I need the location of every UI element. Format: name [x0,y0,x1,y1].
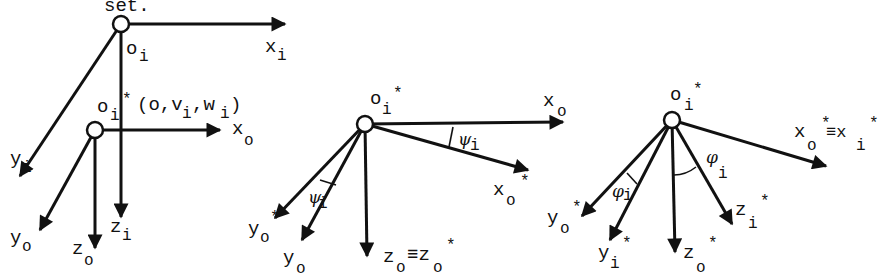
panel-1: O i x i O i * (o,v i ,w i ) x o y i y [10,16,287,270]
svg-text:O: O [126,38,137,60]
label-y-o: y o [10,227,32,256]
panel-3: O i * x o * ≡x i * φ i φ i y o * y i * [547,81,879,277]
axis-z-o [365,124,367,256]
label-origin-o-i-star: O i * [97,91,132,125]
svg-text:i: i [220,105,230,123]
caption-fragment: set. [104,0,150,17]
svg-text:o: o [244,132,254,150]
svg-text:o: o [296,260,306,278]
svg-text:x: x [265,36,276,58]
panel-2: O i * x o ψ i x o * ψ i y o * y o [248,85,567,278]
label-velocity-tuple: (o,v i ,w i ) [137,94,241,123]
svg-text:(o,v: (o,v [137,94,183,116]
svg-text:O: O [670,84,681,106]
label-origin-o-i: O i [126,38,149,66]
svg-text:*: * [122,91,132,109]
svg-text:i: i [139,48,149,66]
svg-text:y: y [10,227,21,249]
label-y-o-star: y o * [248,209,280,247]
svg-text:o: o [506,192,516,210]
svg-text:x: x [232,118,243,140]
svg-text:x: x [543,90,554,112]
origin-o-i-star-marker [87,122,103,138]
svg-text:*: * [708,235,718,253]
label-z-o: z o [72,238,94,270]
svg-text:i: i [277,47,287,65]
svg-text:z: z [683,242,694,264]
svg-text:,w: ,w [192,94,215,116]
label-z-o-star: z o * [683,235,718,277]
svg-text:i: i [382,101,392,119]
svg-text:x: x [493,179,504,201]
svg-text:*: * [520,173,530,191]
axis-y-o [40,130,95,230]
svg-text:*: * [446,237,456,255]
svg-text:*: * [270,209,280,227]
label-phi-y: φ i [612,181,633,205]
label-phi-z: φ i [706,147,728,183]
svg-text:i: i [110,107,120,125]
svg-text:*: * [572,199,582,217]
svg-text:*: * [693,81,703,99]
svg-text:*: * [869,115,879,133]
origin-o-i-star-marker [357,116,373,132]
label-psi-y: ψ i [308,187,328,213]
svg-text:φ: φ [706,147,718,167]
angle-arc-phi-z [674,167,696,175]
label-x-i: x i [265,36,287,65]
svg-text:o: o [557,103,567,121]
axis-y-i-star [610,120,672,240]
label-x-o: x o [543,90,567,121]
svg-text:i: i [623,187,633,205]
svg-text:o: o [22,238,32,256]
svg-text:i: i [182,105,192,123]
svg-text:*: * [622,235,632,253]
svg-text:O: O [370,88,381,110]
svg-text:o: o [433,259,443,277]
svg-text:≡x: ≡x [826,123,846,142]
label-x-o-star: x o * [493,173,530,210]
svg-text:*: * [760,193,770,211]
label-z-o-equiv-z-o-star: z o ≡z o * [383,237,456,277]
label-y-o: y o [283,247,306,278]
svg-text:y: y [547,207,558,229]
svg-text:≡z: ≡z [407,244,430,266]
label-origin-o-i-star: O i * [370,85,403,119]
svg-text:z: z [735,199,746,221]
origin-o-i-marker [113,16,129,32]
angle-arc-psi-x [449,127,453,147]
label-y-o-star: y o * [547,199,582,238]
svg-text:o: o [696,259,706,277]
svg-text:z: z [72,238,83,260]
label-y-i-star: y i * [598,235,632,273]
label-x-o: x o [232,118,254,150]
svg-text:o: o [84,252,94,270]
svg-text:y: y [283,247,294,269]
svg-text:o: o [396,259,406,277]
axis-x-o-star [365,124,528,170]
svg-text:i: i [122,227,132,245]
svg-text:i: i [748,215,758,233]
svg-text:z: z [110,216,121,238]
label-origin-o-i-star: O i * [670,81,703,115]
svg-text:y: y [10,148,21,170]
origin-o-i-star-marker [664,112,680,128]
label-z-i-star: z i * [735,193,770,233]
svg-text:y: y [248,218,259,240]
svg-text:i: i [318,195,328,213]
svg-text:i: i [610,255,620,273]
svg-text:i: i [470,137,480,155]
axis-z-o-star [672,120,675,252]
svg-text:): ) [230,94,241,116]
coordinate-frames-diagram: set. O i x i O i * (o,v i ,w i [0,0,883,280]
svg-text:i: i [684,97,694,115]
svg-text:o: o [560,220,570,238]
label-z-i: z i [110,216,132,245]
svg-text:o: o [807,137,817,155]
svg-text:*: * [393,85,403,103]
svg-text:x: x [794,121,805,143]
svg-text:i: i [718,165,728,183]
svg-text:i: i [856,137,866,155]
angle-arc-phi-y [627,173,637,184]
svg-text:O: O [97,96,108,118]
